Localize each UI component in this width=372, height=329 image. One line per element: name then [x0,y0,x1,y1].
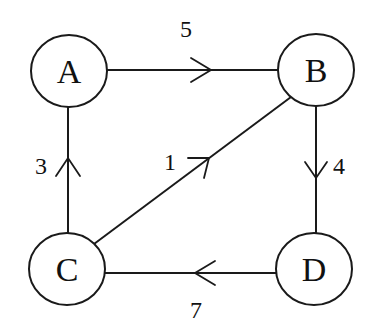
node-label: B [305,52,328,89]
node-c: C [29,233,105,305]
edge-a-to-b: 5 [107,16,278,82]
node-d: D [276,233,352,305]
edge-weight-label: 3 [35,153,47,179]
edge-line [94,97,291,244]
node-label: C [56,251,79,288]
node-label: A [57,53,82,90]
node-b: B [278,34,354,106]
edge-weight-label: 1 [164,149,176,175]
edge-d-to-c: 7 [105,261,276,323]
edge-weight-label: 5 [180,16,192,42]
edge-weight-label: 4 [333,153,345,179]
node-label: D [302,251,327,288]
edge-b-to-d: 4 [305,106,345,233]
node-a: A [31,35,107,107]
edge-weight-label: 7 [190,297,202,323]
graph-canvas: 5 4 7 3 1 A B C D [0,0,372,329]
edge-c-to-b: 1 [94,97,291,244]
edge-c-to-a: 3 [35,107,80,233]
